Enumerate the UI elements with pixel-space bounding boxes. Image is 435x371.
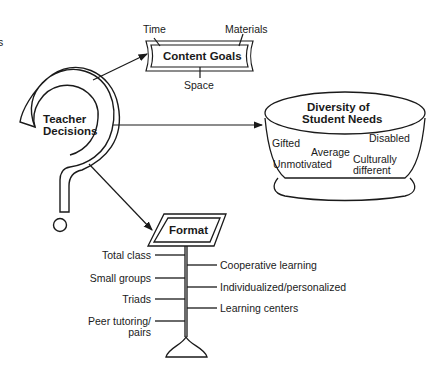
center-label-line1: Teacher xyxy=(43,113,86,125)
format-left-triads: Triads xyxy=(60,293,151,305)
format-right-cooperative: Cooperative learning xyxy=(220,259,317,271)
label-materials: Materials xyxy=(225,23,268,35)
arrow-to-content-goals xyxy=(93,54,147,80)
center-label-line2: Decisions xyxy=(43,125,97,137)
need-gifted: Gifted xyxy=(272,137,300,149)
diversity-title-line2: Student Needs xyxy=(302,113,383,125)
format-right-individualized: Individualized/personalized xyxy=(220,281,346,293)
format-left-small-groups: Small groups xyxy=(60,272,151,284)
label-time: Time xyxy=(143,23,166,35)
format-left-pairs: pairs xyxy=(60,326,151,338)
need-unmotivated: Unmotivated xyxy=(273,158,332,170)
content-goals-title: Content Goals xyxy=(163,50,242,62)
label-space: Space xyxy=(184,79,214,91)
format-title: Format xyxy=(169,224,208,236)
need-average: Average xyxy=(311,146,350,158)
need-disabled: Disabled xyxy=(369,132,410,144)
question-mark-icon xyxy=(20,67,119,231)
need-different: different xyxy=(353,164,391,176)
format-right-learning-centers: Learning centers xyxy=(220,302,298,314)
edge-fragment-text: s xyxy=(0,36,3,48)
format-left-total-class: Total class xyxy=(60,249,151,261)
diversity-title-line1: Diversity of xyxy=(307,101,370,113)
arrow-to-format xyxy=(89,164,152,230)
